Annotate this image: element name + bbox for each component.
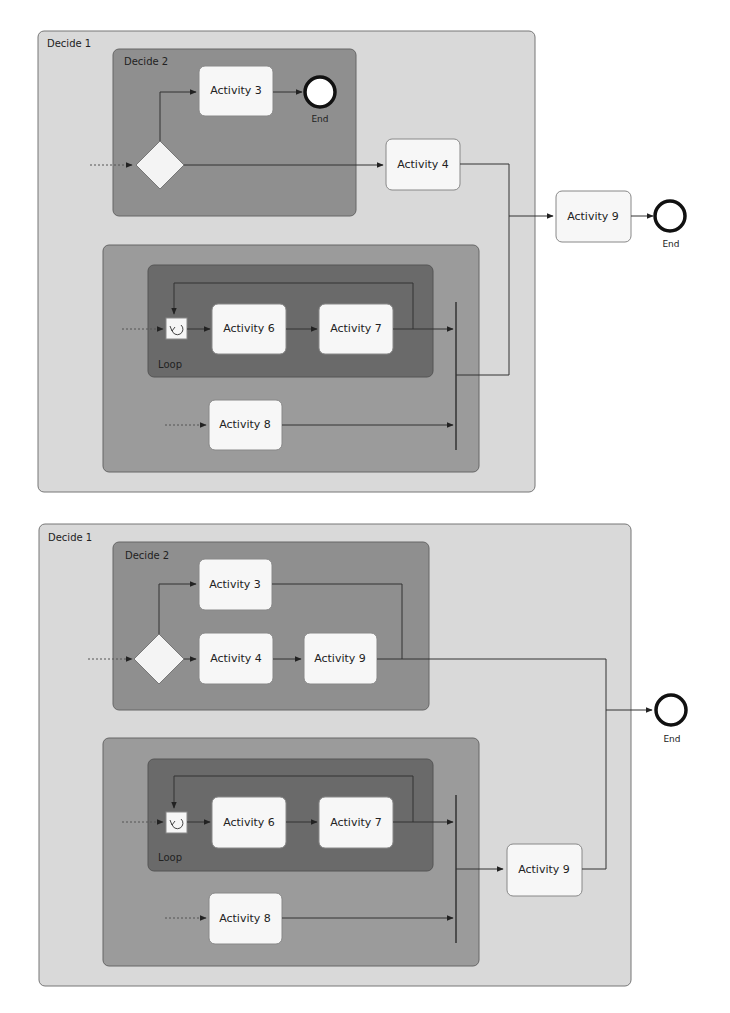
activity-7-label: Activity 7 [330,322,382,335]
end-inner-label: End [311,114,328,124]
activity-3-label: Activity 3 [210,84,262,97]
loop-label: Loop [158,359,182,370]
activity-9-inner-label: Activity 9 [314,652,366,665]
activity-8-label: Activity 8 [219,418,271,431]
activity-4-label: Activity 4 [397,158,449,171]
loop-marker[interactable] [166,812,187,833]
bpmn-canvas: Decide 1 Decide 2 Activity 3 End Activit… [0,0,730,1013]
diagram-2: Decide 1 Decide 2 Activity 3 Activity 4 … [39,524,686,986]
end-event-outer[interactable] [655,201,685,231]
activity-6-label: Activity 6 [223,816,275,829]
decide2-label: Decide 2 [124,56,168,67]
activity-6-label: Activity 6 [223,322,275,335]
decide2-label: Decide 2 [125,550,169,561]
loop-label: Loop [158,852,182,863]
activity-9-outer-label: Activity 9 [518,863,570,876]
end-outer-label: End [663,734,680,744]
activity-9-label: Activity 9 [567,210,619,223]
end-event-outer[interactable] [656,695,686,725]
decide1-label: Decide 1 [48,532,92,543]
activity-4-label: Activity 4 [210,652,262,665]
activity-7-label: Activity 7 [330,816,382,829]
activity-8-label: Activity 8 [219,912,271,925]
loop-marker[interactable] [166,318,187,339]
decide1-label: Decide 1 [47,38,91,49]
activity-3-label: Activity 3 [209,578,261,591]
end-outer-label: End [662,239,679,249]
diagram-1: Decide 1 Decide 2 Activity 3 End Activit… [38,31,685,492]
end-event-inner[interactable] [305,77,335,107]
